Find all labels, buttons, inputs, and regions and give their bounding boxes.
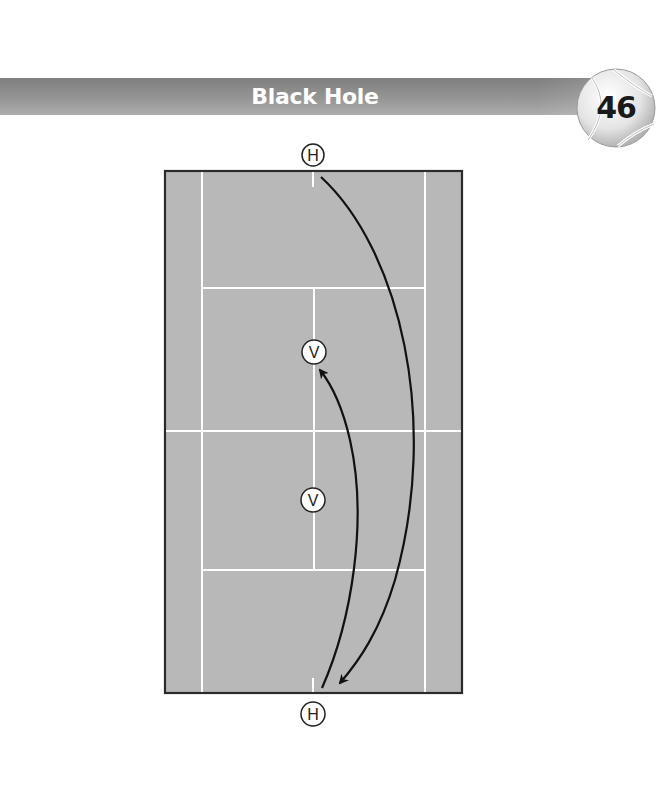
player-marker-hitter-bottom: H — [301, 702, 325, 726]
player-marker-hitter-top: H — [302, 144, 324, 166]
svg-text:V: V — [309, 344, 320, 361]
svg-text:H: H — [307, 147, 319, 164]
player-marker-volleyer-top: V — [302, 340, 326, 364]
player-marker-volleyer-bottom: V — [301, 488, 325, 512]
svg-text:H: H — [307, 706, 319, 723]
svg-text:V: V — [308, 492, 319, 509]
